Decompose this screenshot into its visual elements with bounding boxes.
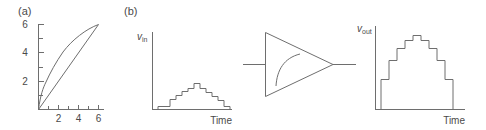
panel-b-label: (b)	[124, 5, 137, 17]
panel-a-y-tick-label-4: 4	[22, 47, 28, 58]
panel-b: (b) vin Time	[124, 5, 465, 126]
input-staircase-waveform	[153, 84, 231, 110]
input-signal-label: vin	[137, 31, 148, 43]
output-signal-label: vout	[357, 23, 372, 35]
panel-a-y-ticks	[39, 25, 44, 96]
figure-svg: (a) 6 4 2	[0, 0, 486, 130]
output-signal-plot: vout Time	[357, 23, 465, 126]
output-signal-subscript: out	[362, 28, 372, 35]
figure-container: (a) 6 4 2	[0, 0, 486, 130]
panel-a-x-ticks	[49, 105, 99, 110]
input-plot-axes	[153, 32, 233, 110]
panel-a-label: (a)	[18, 5, 31, 17]
panel-a-x-tick-label-2: 2	[56, 113, 62, 124]
panel-a-x-tick-label-4: 4	[76, 113, 82, 124]
amplifier-triangle	[266, 33, 334, 97]
input-signal-plot: vin Time	[137, 31, 232, 126]
panel-a-axes	[39, 24, 105, 110]
panel-a: (a) 6 4 2	[18, 5, 104, 124]
output-staircase-waveform	[376, 36, 454, 110]
logarithmic-amplifier	[243, 33, 356, 97]
input-signal-subscript: in	[142, 36, 148, 43]
output-plot-xlabel: Time	[443, 115, 465, 126]
input-plot-xlabel: Time	[210, 115, 232, 126]
amplifier-log-curve-icon	[276, 54, 300, 86]
panel-a-y-tick-label-2: 2	[22, 76, 28, 87]
panel-a-x-tick-label-6: 6	[96, 113, 102, 124]
panel-a-y-tick-label-6: 6	[22, 19, 28, 30]
panel-a-linear-line	[39, 25, 99, 110]
